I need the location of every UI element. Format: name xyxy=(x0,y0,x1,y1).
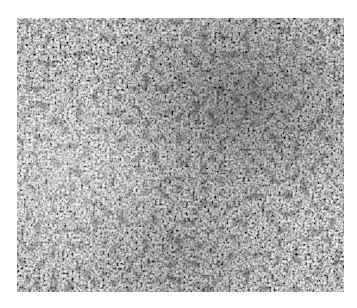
grain-texture xyxy=(17,18,344,292)
micrograph-image xyxy=(17,18,344,292)
